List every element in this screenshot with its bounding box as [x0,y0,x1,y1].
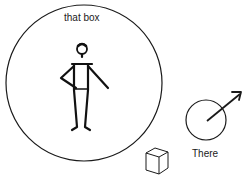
big-circle [6,5,162,161]
direction-arrow-icon [186,92,241,140]
person-icon [61,44,108,130]
pictogram-diagram: that box There [0,0,248,185]
box-cube-icon [146,148,168,174]
small-circle-label: There [192,148,218,159]
big-circle-label: that box [64,12,100,23]
